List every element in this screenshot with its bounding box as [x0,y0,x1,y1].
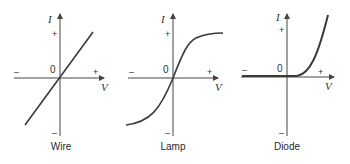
diode-plus-x: + [318,68,323,77]
diode-curve [242,15,328,76]
lamp-curve [126,33,223,125]
diode-minus-y: – [279,129,284,138]
iv-characteristics-figure [0,0,350,164]
lamp-plus-x: + [207,68,212,77]
lamp-minus-y: – [165,129,170,138]
wire-x-label: V [101,82,108,93]
diode-y-label: I [276,12,280,23]
wire-plus-x: + [93,68,98,77]
diode-origin: 0 [277,64,283,74]
lamp-y-label: I [161,14,165,25]
diode-x-label: V [325,81,332,92]
wire-minus-x: – [14,68,19,77]
wire-minus-y: – [52,129,57,138]
lamp-minus-x: – [129,68,134,77]
diode-minus-x: – [242,66,247,75]
lamp-x-label: V [215,82,222,93]
wire-origin: 0 [50,65,56,75]
lamp-origin: 0 [163,65,169,75]
wire-plus-y: + [52,30,57,39]
wire-y-label: I [48,14,52,25]
lamp-caption: Lamp [160,141,185,152]
wire-panel [14,14,104,136]
wire-caption: Wire [51,141,72,152]
diode-caption: Diode [274,141,300,152]
diode-plus-y: + [279,26,284,35]
lamp-plus-y: + [165,30,170,39]
